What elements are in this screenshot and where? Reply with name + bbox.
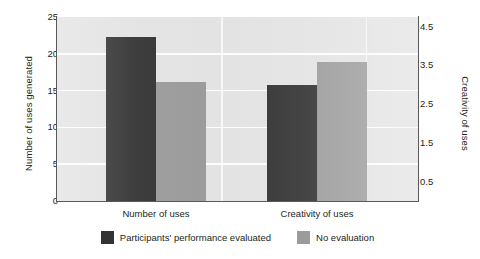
legend-label: No evaluation bbox=[316, 232, 374, 243]
chart-legend: Participants' performance evaluatedNo ev… bbox=[57, 229, 418, 245]
y-axis-title-right: Creativity of uses bbox=[460, 34, 471, 194]
legend-item: No evaluation bbox=[297, 231, 374, 244]
y-tick-label-right: 1.5 bbox=[420, 138, 433, 148]
legend-item: Participants' performance evaluated bbox=[101, 231, 271, 244]
plot-area bbox=[57, 17, 418, 201]
y-axis-ticks-right: 4.53.52.51.50.5 bbox=[420, 0, 450, 259]
bar-chart-figure: Number of uses generated Creativity of u… bbox=[0, 0, 480, 259]
y-axis-ticks-left: 2520151050 bbox=[28, 0, 58, 259]
legend-swatch bbox=[101, 231, 114, 244]
bar bbox=[156, 82, 206, 201]
gridline-vertical bbox=[221, 17, 223, 201]
bar bbox=[106, 37, 156, 201]
legend-label: Participants' performance evaluated bbox=[120, 232, 271, 243]
x-axis-label: Creativity of uses bbox=[237, 208, 397, 219]
y-tick-label-right: 3.5 bbox=[420, 60, 433, 70]
legend-swatch bbox=[297, 231, 310, 244]
x-axis-label: Number of uses bbox=[76, 208, 236, 219]
y-tick-label-right: 2.5 bbox=[420, 99, 433, 109]
bar bbox=[317, 62, 367, 201]
y-tick-label-right: 0.5 bbox=[420, 177, 433, 187]
axis-spine-right bbox=[418, 16, 419, 202]
axis-spine-bottom bbox=[56, 201, 419, 202]
y-tick-label-right: 4.5 bbox=[420, 22, 433, 32]
bar bbox=[267, 85, 317, 201]
axis-spine-left bbox=[56, 16, 57, 202]
